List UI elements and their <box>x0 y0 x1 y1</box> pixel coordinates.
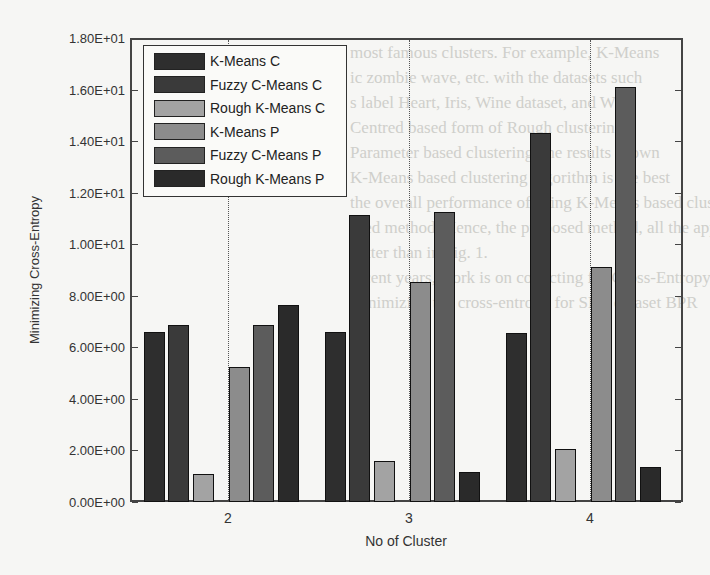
legend-label: Fuzzy C-Means P <box>210 147 321 163</box>
legend-label: K-Means P <box>210 124 279 140</box>
legend-swatch <box>154 100 205 117</box>
y-tick-mark <box>132 502 138 503</box>
y-tick-label: 0.00E+00 <box>69 495 125 510</box>
legend-item: Fuzzy C-Means C <box>154 75 322 95</box>
x-tick-label: 3 <box>405 510 413 526</box>
bar <box>506 333 527 502</box>
y-tick-label: 4.00E+00 <box>69 391 125 406</box>
bar <box>459 472 480 502</box>
legend-label: Rough K-Means C <box>210 100 325 116</box>
x-tick-label: 2 <box>224 510 232 526</box>
bar <box>555 449 576 502</box>
y-tick-label: 1.80E+01 <box>69 31 125 46</box>
y-tick-mark <box>675 347 681 348</box>
y-axis-label: Minimizing Cross-Entropy <box>27 196 42 344</box>
legend-label: K-Means C <box>210 53 280 69</box>
y-tick-mark <box>675 38 681 39</box>
y-tick-mark <box>132 90 138 91</box>
y-tick-mark <box>675 90 681 91</box>
y-tick-mark <box>675 450 681 451</box>
y-tick-mark <box>675 244 681 245</box>
bar <box>168 325 189 502</box>
bar <box>144 332 165 502</box>
y-tick-mark <box>675 193 681 194</box>
x-tick-label: 4 <box>586 510 594 526</box>
legend-swatch <box>154 123 205 140</box>
y-tick-label: 1.40E+01 <box>69 134 125 149</box>
y-tick-mark <box>132 347 138 348</box>
y-tick-mark <box>132 399 138 400</box>
legend-item: Rough K-Means C <box>154 98 325 118</box>
bar <box>615 87 636 502</box>
bar <box>229 367 250 502</box>
bar <box>410 282 431 502</box>
bar <box>193 474 214 502</box>
bar <box>253 325 274 502</box>
y-tick-label: 8.00E+00 <box>69 288 125 303</box>
y-tick-mark <box>675 399 681 400</box>
legend-swatch <box>154 76 205 93</box>
legend-item: K-Means C <box>154 51 280 71</box>
legend-swatch <box>154 170 205 187</box>
y-tick-mark <box>675 502 681 503</box>
y-tick-label: 2.00E+00 <box>69 443 125 458</box>
bar <box>278 305 299 502</box>
legend-item: K-Means P <box>154 122 279 142</box>
y-tick-label: 6.00E+00 <box>69 340 125 355</box>
legend-label: Rough K-Means P <box>210 171 324 187</box>
bar <box>640 467 661 502</box>
y-tick-mark <box>132 38 138 39</box>
y-tick-mark <box>675 296 681 297</box>
bar <box>434 212 455 502</box>
y-tick-mark <box>132 193 138 194</box>
legend-swatch <box>154 147 205 164</box>
bar <box>325 332 346 502</box>
bar <box>374 461 395 502</box>
legend-item: Fuzzy C-Means P <box>154 145 321 165</box>
x-axis-label: No of Cluster <box>365 533 447 549</box>
y-tick-label: 1.20E+01 <box>69 185 125 200</box>
y-tick-mark <box>132 296 138 297</box>
legend-swatch <box>154 53 205 70</box>
y-tick-mark <box>132 141 138 142</box>
legend-item: Rough K-Means P <box>154 169 324 189</box>
legend: K-Means CFuzzy C-Means CRough K-Means CK… <box>143 45 347 197</box>
y-tick-label: 1.60E+01 <box>69 82 125 97</box>
y-tick-mark <box>132 244 138 245</box>
y-tick-mark <box>132 450 138 451</box>
bar <box>530 133 551 502</box>
y-tick-mark <box>675 141 681 142</box>
bar <box>591 267 612 502</box>
y-tick-label: 1.00E+01 <box>69 237 125 252</box>
legend-label: Fuzzy C-Means C <box>210 77 322 93</box>
bar <box>349 215 370 502</box>
